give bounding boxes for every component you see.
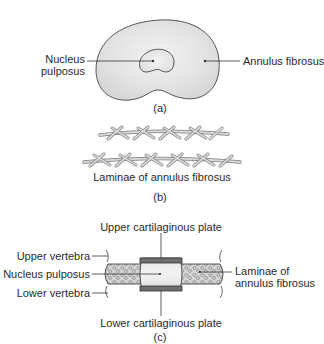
disc-top-view xyxy=(87,20,240,100)
label-lower-cartilaginous-plate: Lower cartilaginous plate xyxy=(80,317,242,329)
label-upper-cartilaginous-plate: Upper cartilaginous plate xyxy=(80,221,242,233)
label-lower-vertebra: Lower vertebra xyxy=(0,287,90,299)
caption-b: (b) xyxy=(140,191,180,203)
label-laminae-line1: Laminae of xyxy=(235,265,315,277)
label-nucleus-line1: Nucleus xyxy=(30,53,85,65)
label-laminae-b: Laminae of annulus fibrosus xyxy=(62,171,262,183)
upper-cartilaginous-plate-shape xyxy=(140,258,182,263)
label-laminae-c: Laminae of annulus fibrosus xyxy=(235,265,315,289)
intervertebral-disc-diagram: Nucleus pulposus Annulus fibrosus (a) La… xyxy=(0,0,324,344)
right-annulus-shape xyxy=(180,264,223,284)
label-laminae-line2: annulus fibrosus xyxy=(235,277,315,289)
label-nucleus-pulposus-a: Nucleus pulposus xyxy=(30,53,85,77)
annulus-leader-dot xyxy=(204,60,206,62)
label-nucleus-line2: pulposus xyxy=(30,65,85,77)
caption-c: (c) xyxy=(140,331,180,343)
lower-cartilaginous-plate-shape xyxy=(140,286,182,291)
nucleus-leader-dot xyxy=(152,60,154,62)
label-annulus-fibrosus-a: Annulus fibrosus xyxy=(243,55,324,67)
laminae-fibers xyxy=(84,127,240,166)
disc-side-view xyxy=(92,233,232,316)
label-nucleus-pulposus-c: Nucleus pulposus xyxy=(0,268,90,280)
caption-a: (a) xyxy=(140,102,180,114)
label-upper-vertebra: Upper vertebra xyxy=(0,250,90,262)
